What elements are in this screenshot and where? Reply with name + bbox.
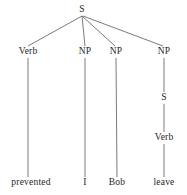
tree-node-root-s: S <box>79 5 84 15</box>
tree-leaf-leaf-leave: leave <box>153 178 174 188</box>
tree-leaf-leaf-bob: Bob <box>109 178 125 188</box>
tree-edge <box>82 16 115 46</box>
tree-edges-layer <box>0 0 187 195</box>
tree-node-np-3: NP <box>158 47 171 57</box>
tree-edge <box>83 16 163 46</box>
tree-node-verb-2: Verb <box>155 133 174 143</box>
tree-leaf-leaf-i: I <box>83 178 86 188</box>
tree-node-np-2: NP <box>110 47 123 57</box>
syntax-tree-figure: SVerbNPNPNPSVerb preventedIBobleave <box>0 0 187 195</box>
tree-edge <box>82 16 85 46</box>
tree-node-verb-1: Verb <box>19 47 38 57</box>
tree-node-np-1: NP <box>79 47 92 57</box>
tree-edge <box>28 16 82 46</box>
tree-leaf-leaf-prevented: prevented <box>11 178 50 188</box>
tree-edge <box>116 58 117 177</box>
tree-node-embedded-s: S <box>161 93 166 103</box>
